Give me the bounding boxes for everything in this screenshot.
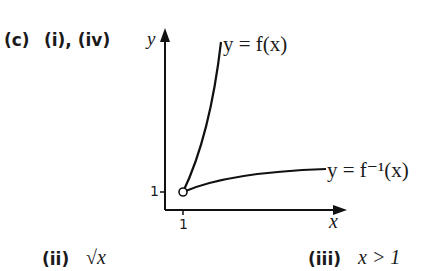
y-axis-label: y (147, 28, 155, 50)
curve-f (183, 42, 221, 192)
open-point (179, 188, 187, 196)
y-tick-label: 1 (150, 183, 159, 199)
answer-ii-label: (ii) (42, 249, 69, 269)
y-axis-arrow-icon (160, 28, 170, 42)
curve-f-label-text: y = f(x) (223, 32, 287, 56)
answer-iii-value: x > 1 (358, 246, 400, 269)
curve-f-inverse-label-text: y = f⁻¹(x) (327, 158, 409, 182)
x-tick-label: 1 (179, 216, 188, 232)
curve-f-label: y = f(x) (223, 32, 287, 57)
curve-f-inverse-label: y = f⁻¹(x) (327, 158, 409, 183)
answer-ii-value: √x (86, 246, 106, 269)
curve-f-inverse (183, 169, 326, 192)
answer-iii-label: (iii) (308, 249, 341, 269)
function-inverse-graph (0, 0, 428, 271)
x-axis-label: x (329, 210, 338, 233)
